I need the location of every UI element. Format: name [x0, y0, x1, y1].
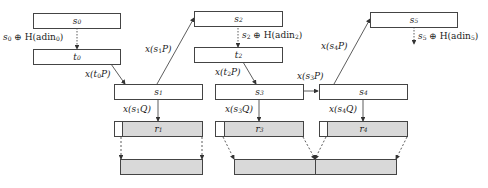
- state-t2: t2: [194, 47, 283, 63]
- label-part: P): [338, 41, 348, 51]
- label-s1-s2: x(s1P): [145, 44, 172, 54]
- output-block-3: [234, 159, 316, 175]
- output-r4: r4: [319, 121, 408, 137]
- output-sub: 4: [364, 126, 368, 133]
- label-part: ⊕ H(adin: [426, 31, 470, 41]
- state-s3: s3: [215, 84, 304, 100]
- label-part: x(s: [297, 71, 310, 81]
- label-s3-s4: x(s3P): [297, 71, 324, 81]
- output-sub: 3: [260, 126, 264, 133]
- label-part: P): [314, 71, 324, 81]
- label-s1-r1: x(s1Q): [123, 104, 151, 114]
- output-block-1: [120, 159, 203, 175]
- label-part: ⊕ H(adin: [11, 32, 55, 42]
- label-part: Q): [140, 104, 151, 114]
- label-s4-r4: x(s4Q): [329, 104, 357, 114]
- arrow-t2-s3: [243, 62, 256, 84]
- label-part: P): [101, 69, 111, 79]
- label-part: x(s: [123, 104, 136, 114]
- output-block-4: [315, 159, 397, 175]
- label-part: ): [299, 30, 303, 40]
- label-s2-t2: s2 ⊕ H(adin2): [242, 30, 302, 40]
- output-r1: r1: [114, 121, 203, 137]
- state-s1: s1: [114, 84, 203, 100]
- label-s4-s5: x(s4P): [321, 41, 348, 51]
- label-part: P): [162, 44, 172, 54]
- arrow-r4-out-left: [315, 137, 326, 159]
- label-s3-r3: x(s3Q): [225, 104, 253, 114]
- label-part: x(t: [85, 69, 97, 79]
- discarded-segment: [320, 122, 328, 136]
- label-part: x(s: [321, 41, 334, 51]
- state-s0: s0: [33, 13, 121, 29]
- label-part: Q): [346, 104, 357, 114]
- state-sub: 5: [414, 17, 418, 24]
- arrow-r4-out-right: [396, 137, 407, 159]
- label-part: x(s: [145, 44, 158, 54]
- label-part: ⊕ H(adin: [250, 30, 294, 40]
- label-part: ): [475, 31, 479, 41]
- state-sub: 2: [239, 16, 243, 23]
- state-sub: 1: [159, 89, 163, 96]
- arrow-s4-s5: [334, 19, 370, 84]
- arrow-r3-out-left: [223, 137, 234, 159]
- label-s5-next: s5 ⊕ H(adin5): [418, 31, 478, 41]
- state-sub: 4: [364, 89, 368, 96]
- label-s0-t0: s0 ⊕ H(adin0): [3, 32, 63, 42]
- state-s4: s4: [319, 84, 408, 100]
- state-t0: t0: [33, 49, 121, 65]
- label-t0-s1: x(t0P): [85, 69, 111, 79]
- output-sub: 1: [159, 126, 163, 133]
- state-sub: 0: [77, 18, 81, 25]
- arrow-r3-out-right: [303, 137, 315, 159]
- state-s2: s2: [194, 11, 283, 27]
- state-sub: 3: [260, 89, 264, 96]
- label-part: x(s: [329, 104, 342, 114]
- state-s5: s5: [370, 12, 458, 28]
- state-sub: 2: [238, 52, 242, 59]
- label-part: Q): [242, 104, 253, 114]
- label-part: x(t: [215, 67, 227, 77]
- label-part: ): [60, 32, 64, 42]
- arrow-t0-s1: [111, 64, 125, 84]
- output-r3: r3: [215, 121, 304, 137]
- state-sub: 0: [77, 54, 81, 61]
- label-t2-s3: x(t2P): [215, 67, 241, 77]
- discarded-segment: [216, 122, 225, 136]
- label-part: P): [231, 67, 241, 77]
- label-part: x(s: [225, 104, 238, 114]
- discarded-segment: [115, 122, 123, 136]
- drbg-diagram: s0 t0 s1 s2 t2 s3 s4 s5 r1 r3 r4 s0 ⊕ H(…: [0, 0, 488, 188]
